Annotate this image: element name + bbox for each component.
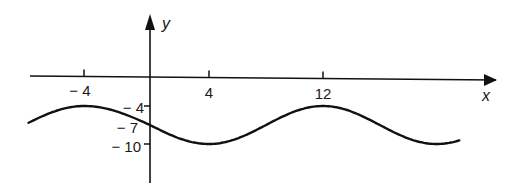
y-tick-label: − 10 — [111, 138, 141, 155]
x-axis — [30, 76, 496, 80]
x-tick-label: 4 — [205, 84, 213, 101]
x-ticks: − 4412 — [69, 69, 331, 101]
x-axis-arrow-icon — [484, 74, 497, 86]
y-axis-label: y — [161, 15, 171, 32]
y-axis-arrow-icon — [145, 14, 155, 30]
x-axis-label: x — [481, 87, 491, 104]
y-tick-label: − 7 — [117, 119, 138, 136]
chart: − 4412 − 4− 7− 10 y x — [0, 0, 522, 191]
x-tick-label: 12 — [315, 85, 332, 102]
x-tick-label: − 4 — [69, 82, 90, 99]
y-ticks: − 4− 7− 10 — [111, 99, 150, 155]
sine-curve — [29, 106, 460, 144]
